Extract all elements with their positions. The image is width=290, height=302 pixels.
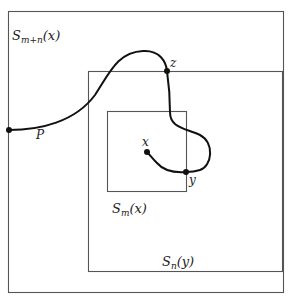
label-P: P [35,128,45,142]
label-inner-main: S [112,201,121,216]
label-z: z [169,56,177,70]
label-middle-box: Sn(y) [162,254,194,271]
label-middle-arg: (y) [177,254,195,269]
label-x: x [142,135,149,149]
label-outer-sub: m+n [21,35,43,45]
label-y: y [188,173,196,187]
label-outer-arg: (x) [43,28,60,43]
nested-boxes-path-diagram: P z x y Sm+n(x) Sm(x) Sn(y) [0,0,290,302]
label-inner-box: Sm(x) [112,201,147,218]
label-middle-main: S [162,254,171,269]
label-outer-box: Sm+n(x) [12,28,60,45]
point-P [6,127,12,133]
label-inner-sub: m [121,208,130,218]
point-x [144,149,150,155]
label-outer-main: S [12,28,21,43]
label-inner-arg: (x) [129,201,146,216]
